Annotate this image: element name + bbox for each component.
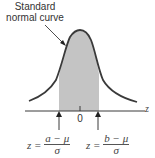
right-denominator: σ bbox=[103, 145, 129, 156]
left-bound-formula: z = a − μ σ bbox=[27, 133, 70, 156]
normal-curve-diagram bbox=[0, 0, 155, 158]
annotation-line1: Standard bbox=[4, 1, 66, 12]
axis-label: z bbox=[145, 103, 149, 114]
left-lhs: z = bbox=[27, 139, 41, 151]
right-fraction: b − μ σ bbox=[103, 133, 129, 156]
right-bound-formula: z = b − μ σ bbox=[86, 133, 129, 156]
zero-label: 0 bbox=[76, 113, 84, 124]
right-lhs: z = bbox=[86, 139, 100, 151]
right-arrow-head bbox=[95, 111, 101, 117]
left-denominator: σ bbox=[44, 145, 70, 156]
annotation-line2: normal curve bbox=[4, 12, 66, 23]
annotation-pointer bbox=[45, 25, 64, 44]
shaded-area bbox=[59, 30, 99, 111]
left-fraction: a − μ σ bbox=[44, 133, 70, 156]
annotation-label: Standard normal curve bbox=[4, 1, 66, 23]
left-arrow-head bbox=[56, 111, 62, 117]
